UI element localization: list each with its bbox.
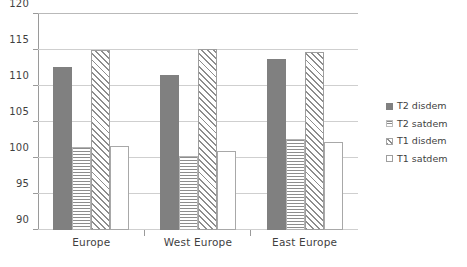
legend-item[interactable]: T2 satdem (386, 119, 448, 129)
bar-groups (38, 14, 358, 230)
bar-t2-satdem[interactable] (72, 147, 91, 230)
bar-chart: 9095100105110115120 EuropeWest EuropeEas… (0, 0, 467, 267)
x-axis-category-label: West Europe (145, 236, 252, 248)
x-axis-category-label: East Europe (251, 236, 358, 248)
y-axis-tick-label: 120 (9, 0, 29, 9)
plot-area: 9095100105110115120 (38, 14, 358, 230)
bar-group (38, 14, 145, 230)
legend-swatch-icon (386, 103, 393, 110)
bar-t1-satdem[interactable] (110, 146, 129, 230)
y-axis-tick-label: 115 (9, 35, 29, 45)
bar-group-bars (267, 14, 343, 230)
bar-group-bars (160, 14, 236, 230)
legend-label: T2 satdem (397, 119, 448, 129)
legend-swatch-icon (386, 120, 393, 127)
bar-t2-disdem[interactable] (267, 59, 286, 230)
y-axis-tick-label: 95 (16, 179, 29, 189)
legend-label: T1 satdem (397, 154, 448, 164)
legend-item[interactable]: T2 disdem (386, 101, 448, 111)
legend-label: T1 disdem (397, 136, 447, 146)
bar-t1-satdem[interactable] (217, 151, 236, 230)
y-axis-tick-label: 100 (9, 143, 29, 153)
x-axis-labels: EuropeWest EuropeEast Europe (38, 236, 358, 248)
legend-item[interactable]: T1 satdem (386, 154, 448, 164)
bar-t2-satdem[interactable] (286, 139, 305, 230)
y-axis-tick-label: 110 (9, 71, 29, 81)
bar-t1-disdem[interactable] (198, 49, 217, 230)
bar-t1-satdem[interactable] (324, 142, 343, 230)
legend-label: T2 disdem (397, 101, 447, 111)
y-axis-tick-label: 105 (9, 107, 29, 117)
x-axis-category-label: Europe (38, 236, 145, 248)
bar-group-bars (53, 14, 129, 230)
bar-t1-disdem[interactable] (91, 50, 110, 230)
bar-group (145, 14, 252, 230)
legend-swatch-icon (386, 138, 393, 145)
bar-t2-disdem[interactable] (160, 75, 179, 230)
legend-item[interactable]: T1 disdem (386, 136, 448, 146)
legend: T2 disdemT2 satdemT1 disdemT1 satdem (386, 101, 448, 164)
bar-group (251, 14, 358, 230)
bar-t1-disdem[interactable] (305, 52, 324, 230)
bar-t2-satdem[interactable] (179, 156, 198, 230)
bar-t2-disdem[interactable] (53, 67, 72, 230)
y-axis-tick-label: 90 (16, 215, 29, 225)
legend-swatch-icon (386, 155, 393, 162)
